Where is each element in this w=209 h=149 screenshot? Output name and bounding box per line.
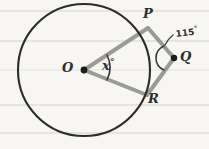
angle-arc-q <box>156 46 164 70</box>
segment-QR <box>147 58 174 95</box>
point-dot-o <box>81 67 88 74</box>
degree-symbol: ° <box>110 56 115 67</box>
point-dot-q <box>171 55 177 61</box>
angle-label-x: x° <box>102 57 115 72</box>
segments-group <box>84 28 174 95</box>
segment-OR <box>84 70 147 95</box>
angle-label-x-value: x <box>102 58 110 73</box>
point-label-q: Q <box>180 50 191 63</box>
diagram-canvas: P Q R O x° 115° <box>0 0 209 149</box>
point-label-p: P <box>143 7 153 20</box>
geometry-figure <box>0 0 209 149</box>
angle-leader-line <box>165 35 173 45</box>
segment-PQ <box>148 28 174 58</box>
point-label-r: R <box>148 92 159 105</box>
point-label-o: O <box>62 61 73 74</box>
